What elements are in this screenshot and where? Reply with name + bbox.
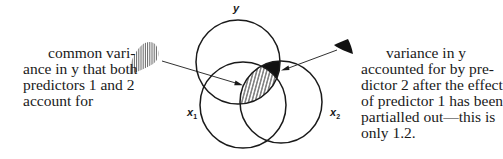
arrow-to-common-variance (162, 61, 243, 85)
caption-line: common vari- (23, 45, 123, 61)
arrow-to-unique-variance (281, 50, 337, 71)
caption-line: of predictor 1 has been (361, 93, 503, 109)
circle-label-x2: x2 (330, 106, 340, 120)
caption-line: predictors 1 and 2 (23, 77, 123, 93)
common-variance-caption: common vari- ance in y that both predict… (23, 45, 123, 109)
label-x1-subscript: 1 (193, 113, 197, 120)
unique-variance-caption: variance in y accounted for by pre- dict… (361, 45, 503, 141)
caption-line: ance in y that both (23, 61, 123, 77)
caption-line: dictor 2 after the effect (361, 77, 503, 93)
label-x2-subscript: 2 (336, 113, 340, 120)
solid-legend-swatch (334, 39, 353, 54)
circle-label-x1: x1 (187, 106, 197, 120)
circle-x1 (200, 62, 286, 148)
label-y-text: y (233, 2, 239, 14)
circle-label-y: y (233, 2, 239, 14)
unique-variance-x2-region (180, 40, 320, 140)
caption-line: account for (23, 93, 123, 109)
caption-line: partialled out—this is (361, 109, 503, 125)
caption-line: accounted for by pre- (361, 61, 503, 77)
caption-line: variance in y (361, 45, 503, 61)
caption-line: only 1.2. (361, 125, 503, 141)
